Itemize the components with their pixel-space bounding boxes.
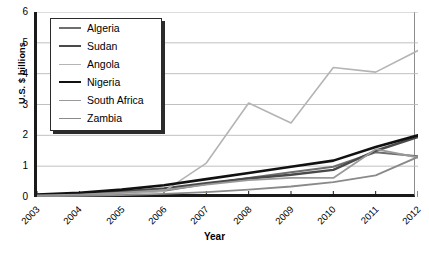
legend-item-nigeria[interactable]: Nigeria [51,73,161,91]
legend-item-angola[interactable]: Angola [51,55,161,73]
legend-item-south-africa[interactable]: South Africa [51,91,161,109]
x-tick-label: 2004 [54,204,83,233]
x-tick-label: 2010 [308,204,337,233]
legend-swatch-icon [59,81,81,83]
y-tick-label: 1 [10,161,28,171]
y-tick-label: 6 [10,7,28,17]
x-tick-label: 2003 [12,204,41,233]
y-tick-label: 5 [10,38,28,48]
legend-label: Zambia [87,113,122,124]
legend-label: South Africa [87,95,144,106]
x-tick-label: 2008 [224,204,253,233]
legend-swatch-icon [59,45,81,47]
legend-label: Sudan [87,41,117,52]
y-tick-label: 3 [10,100,28,110]
x-axis-tick-labels: 2003200420052006200720082009201020112012 [0,199,429,233]
x-tick-label: 2012 [393,204,422,233]
legend: AlgeriaSudanAngolaNigeriaSouth AfricaZam… [50,18,162,131]
x-tick-label: 2006 [139,204,168,233]
line-chart: U.S. $ billions 0123456 2003200420052006… [0,0,429,253]
x-tick-label: 2007 [181,204,210,233]
legend-swatch-icon [59,100,81,101]
legend-swatch-icon [59,64,81,65]
x-tick-label: 2011 [351,204,380,233]
x-axis-title: Year [0,231,429,242]
legend-swatch-icon [59,118,81,119]
legend-label: Angola [87,59,120,70]
legend-item-sudan[interactable]: Sudan [51,37,161,55]
y-tick-label: 2 [10,130,28,140]
legend-label: Nigeria [87,77,120,88]
x-tick-label: 2005 [97,204,126,233]
legend-swatch-icon [59,27,81,29]
legend-item-zambia[interactable]: Zambia [51,109,161,127]
legend-item-algeria[interactable]: Algeria [51,19,161,37]
legend-label: Algeria [87,23,120,34]
x-tick-label: 2009 [266,204,295,233]
series-line-nigeria [37,135,418,194]
y-tick-label: 4 [10,69,28,79]
